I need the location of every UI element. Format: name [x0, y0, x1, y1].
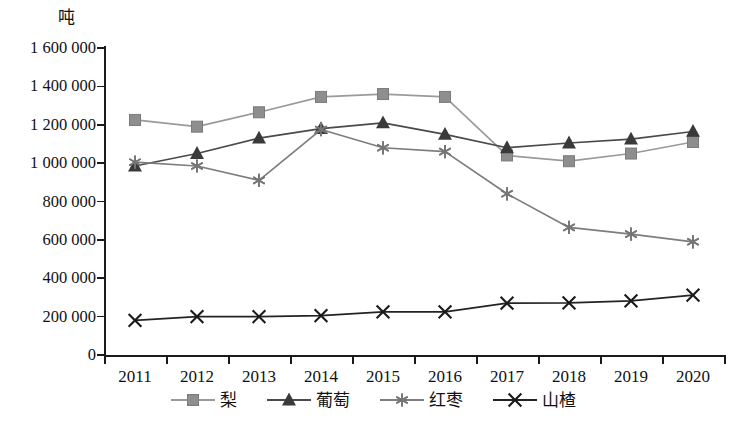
x-axis-tick-label: 2016 [410, 366, 480, 388]
x-axis-tick-mark [600, 356, 602, 364]
data-point-square-marker [564, 156, 575, 167]
data-point-square-marker [378, 89, 389, 100]
y-axis-tick: 800 000 [0, 194, 96, 210]
data-point-cross-marker [509, 394, 522, 407]
y-axis-tick-label: 1 000 000 [4, 155, 96, 171]
x-axis-tick-label: 2013 [224, 366, 294, 388]
y-axis-tick: 200 000 [0, 309, 96, 325]
data-point-square-marker [254, 107, 265, 118]
x-axis-tick-mark [166, 356, 168, 364]
legend-item-1[interactable]: 梨 [171, 390, 237, 410]
y-axis-tick: 1 400 000 [0, 78, 96, 94]
y-axis-tick-label: 1 200 000 [4, 117, 96, 133]
legend-label-4: 山楂 [542, 390, 576, 410]
y-axis-tick: 1 600 000 [0, 40, 96, 56]
x-axis-tick-label: 2017 [472, 366, 542, 388]
series-2 [135, 123, 693, 166]
legend-label-3: 红枣 [429, 390, 463, 410]
data-point-square-marker [192, 121, 203, 132]
x-axis-tick-mark [414, 356, 416, 364]
x-axis-tick-label: 2020 [658, 366, 728, 388]
y-axis-tick-label: 600 000 [4, 232, 96, 248]
y-axis-tick: 400 000 [0, 270, 96, 286]
data-point-square-marker [688, 137, 699, 148]
y-axis-tick: 0 [0, 347, 96, 363]
x-axis-tick-label: 2018 [534, 366, 604, 388]
x-axis-tick-label: 2019 [596, 366, 666, 388]
legend-item-3[interactable]: 红枣 [380, 390, 463, 410]
legend-swatch-triangle-icon [267, 391, 311, 409]
series-3-markers [129, 123, 698, 248]
legend-marker-square-icon [183, 390, 203, 410]
y-axis-tick: 600 000 [0, 232, 96, 248]
y-axis-tick-label: 800 000 [4, 194, 96, 210]
data-point-square-marker [316, 91, 327, 102]
series-4-markers [129, 289, 700, 327]
y-axis-tick-label: 1 600 000 [4, 40, 96, 56]
x-axis-tick-mark [104, 356, 106, 364]
x-axis-tick-mark [228, 356, 230, 364]
legend-swatch-asterisk-icon [380, 391, 424, 409]
data-point-asterisk-marker [396, 393, 407, 406]
legend-marker-cross-icon [505, 390, 525, 410]
data-point-triangle-marker [376, 115, 390, 128]
x-axis-tick-label: 2015 [348, 366, 418, 388]
x-axis-tick-mark [662, 356, 664, 364]
x-axis-tick-mark [352, 356, 354, 364]
series-2-markers [128, 115, 700, 171]
legend-label-1: 梨 [220, 390, 237, 410]
series-layer [104, 48, 724, 355]
legend-item-4[interactable]: 山楂 [493, 390, 576, 410]
x-axis-tick-mark [476, 356, 478, 364]
y-axis-tick-label: 1 400 000 [4, 78, 96, 94]
legend-marker-triangle-icon [279, 390, 299, 410]
legend-marker-asterisk-icon [392, 390, 412, 410]
line-chart: 吨 0200 000400 000600 000800 0001 000 000… [0, 0, 747, 424]
data-point-square-marker [626, 148, 637, 159]
chart-legend: 梨葡萄红枣山楂 [0, 390, 747, 410]
y-axis-tick-label: 0 [4, 347, 96, 363]
data-point-asterisk-marker [253, 174, 264, 187]
data-point-square-marker [440, 91, 451, 102]
data-point-asterisk-marker [501, 187, 512, 200]
x-axis-tick-mark [724, 356, 726, 364]
series-3 [135, 130, 693, 242]
data-point-square-marker [130, 114, 141, 125]
legend-swatch-square-icon [171, 391, 215, 409]
plot-area [104, 48, 724, 355]
x-axis-tick-label: 2014 [286, 366, 356, 388]
data-point-square-marker [188, 395, 199, 406]
x-axis-tick-mark [538, 356, 540, 364]
x-axis-tick-label: 2011 [100, 366, 170, 388]
y-axis-tick: 1 200 000 [0, 117, 96, 133]
series-1 [135, 94, 693, 161]
legend-item-2[interactable]: 葡萄 [267, 390, 350, 410]
y-axis-tick: 1 000 000 [0, 155, 96, 171]
y-axis-tick-label: 400 000 [4, 270, 96, 286]
x-axis-tick-label: 2012 [162, 366, 232, 388]
y-axis-tick-label: 200 000 [4, 309, 96, 325]
y-axis-unit-label: 吨 [58, 6, 75, 28]
legend-label-2: 葡萄 [316, 390, 350, 410]
legend-swatch-cross-icon [493, 391, 537, 409]
x-axis-tick-mark [290, 356, 292, 364]
data-point-triangle-marker [282, 393, 296, 406]
data-point-triangle-marker [686, 124, 700, 137]
series-4 [135, 295, 693, 320]
